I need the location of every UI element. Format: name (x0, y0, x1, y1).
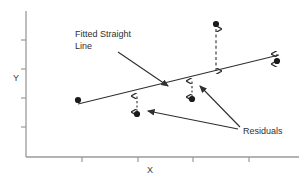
data-point (75, 97, 81, 103)
annotations-group: Fitted Straight Line Residuals (75, 29, 283, 136)
leader-lines-group (118, 52, 240, 129)
x-axis-ticks (82, 157, 249, 162)
fitted-line-label-line1: Fitted Straight (75, 29, 132, 39)
y-axis-label: Y (13, 73, 19, 83)
residuals-label: Residuals (243, 126, 283, 136)
fitted-regression-line (78, 55, 279, 104)
data-point (134, 111, 140, 117)
residual-arrows-group (137, 29, 277, 112)
residuals-leader-left (148, 111, 238, 129)
residuals-leader-right (200, 86, 240, 127)
fitted-line-label-line2: Line (75, 41, 92, 51)
fitted-line-group (78, 55, 279, 104)
axes-group: Y X (13, 11, 299, 175)
regression-residuals-figure: Y X Fitted S (0, 0, 303, 187)
data-point (189, 96, 195, 102)
data-point (274, 58, 280, 64)
data-point (213, 21, 219, 27)
figure-canvas: Y X Fitted S (0, 0, 303, 187)
y-axis-ticks (21, 40, 26, 127)
fitted-line-leader (118, 52, 168, 86)
x-axis-label: X (147, 165, 153, 175)
